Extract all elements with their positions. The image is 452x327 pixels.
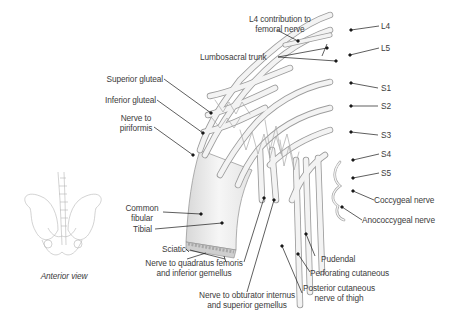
label-root-l5: L5 [381,43,390,53]
label-root-l4: L4 [381,21,390,31]
label-tibial: Tibial [133,224,152,234]
label-l4-contribution: L4 contribution to femoral nerve [249,14,311,34]
label-root-s5: S5 [381,168,391,178]
label-line: and superior gemellus [190,300,304,310]
caption-anterior-view: Anterior view [30,271,98,281]
label-inferior-gluteal: Inferior gluteal [70,95,156,105]
pelvis-thumbnail [25,172,101,255]
label-root-s3: S3 [381,130,391,140]
label-line: femoral nerve [249,24,311,34]
label-nerve-to-quadratus-femoris: Nerve to quadratus femoris and inferior … [140,258,248,278]
label-root-s4: S4 [381,149,391,159]
label-line: and inferior gemellus [140,268,248,278]
label-line: Nerve to quadratus femoris [140,258,248,268]
label-root-s2: S2 [381,101,391,111]
label-root-s1: S1 [381,83,391,93]
label-line: fibular [120,213,164,223]
label-line: Nerve to obturator internus [190,290,304,300]
label-line: Posterior cutaneous [299,283,379,293]
label-line: Nerve to [110,113,162,123]
sciatic-trunk [186,150,252,258]
label-perforating-cutaneous: Perforating cutaneous [310,268,389,278]
label-line: piriformis [110,123,162,133]
label-line: L4 contribution to [249,14,311,24]
label-lumbosacral-trunk: Lumbosacral trunk [200,52,267,62]
label-line: Common [120,203,164,213]
label-line: nerve of thigh [299,293,379,303]
label-nerve-to-piriformis: Nerve to piriformis [110,113,162,133]
label-superior-gluteal: Superior gluteal [76,74,163,84]
label-posterior-cutaneous-nerve: Posterior cutaneous nerve of thigh [299,283,379,303]
label-common-fibular: Common fibular [120,203,164,223]
label-pudendal: Pudendal [321,254,355,264]
label-coccygeal-nerve: Coccygeal nerve [374,195,434,205]
label-nerve-to-obturator-internus: Nerve to obturator internus and superior… [190,290,304,310]
label-anococcygeal-nerve: Anococcygeal nerve [362,215,435,225]
label-sciatic: Sciatic [162,244,186,254]
